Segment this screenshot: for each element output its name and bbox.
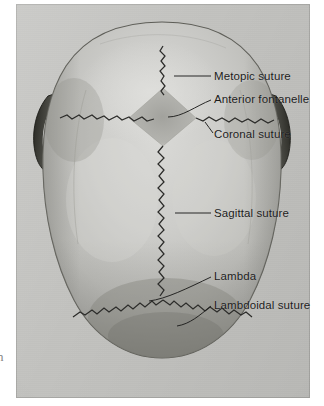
label-metopic-suture: Metopic suture [214,70,291,82]
label-sagittal-suture: Sagittal suture [214,207,289,219]
label-anterior-fontanelle: Anterior fontanelle [214,93,309,105]
cropped-edge-glyph: n [0,348,4,366]
skull-illustration [0,0,324,406]
label-coronal-suture: Coronal suture [214,128,291,140]
label-lambda: Lambda [214,270,256,282]
label-lambdoidal-suture: Lambdoidal suture [214,299,310,311]
scanned-page: Metopic suture Anterior fontanelle Coron… [0,0,324,406]
